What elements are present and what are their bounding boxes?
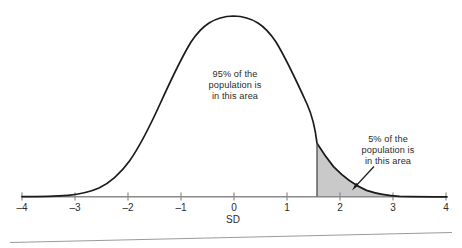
annotation-tail-area: 5% of the population is in this area xyxy=(338,134,438,168)
annotation-tail-line3: in this area xyxy=(338,156,438,167)
annotation-center-line1: 95% of the xyxy=(185,69,285,80)
x-tick-label-one: 1 xyxy=(275,202,299,213)
annotation-tail-line2: population is xyxy=(338,145,438,156)
annotation-tail-line1: 5% of the xyxy=(338,134,438,145)
x-tick-label-four: 4 xyxy=(434,202,458,213)
x-tick-label-minus3: –3 xyxy=(63,202,87,213)
page-edge-line xyxy=(10,233,452,243)
normal-distribution-figure: 95% of the population is in this area 5%… xyxy=(0,0,462,248)
x-tick-label-two: 2 xyxy=(328,202,352,213)
x-tick-label-minus4: –4 xyxy=(10,202,34,213)
x-tick-label-zero: 0 xyxy=(222,202,246,213)
annotation-center-area: 95% of the population is in this area xyxy=(185,69,285,103)
x-axis-title: SD xyxy=(221,214,245,225)
annotation-center-line2: population is xyxy=(185,80,285,91)
normal-curve xyxy=(22,16,447,197)
x-tick-label-three: 3 xyxy=(381,202,405,213)
x-tick-label-minus2: –2 xyxy=(116,202,140,213)
x-tick-label-minus1: –1 xyxy=(169,202,193,213)
annotation-center-line3: in this area xyxy=(185,91,285,102)
tail-annotation-arrow xyxy=(352,167,374,191)
